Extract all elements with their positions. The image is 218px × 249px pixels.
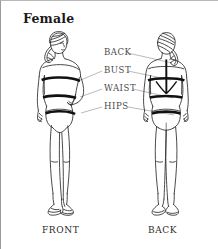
caption-front: FRONT <box>42 225 79 235</box>
caption-back: BACK <box>148 225 177 235</box>
female-measurement-diagram: Female BACK BUST WAIST HIPS <box>0 0 218 249</box>
measurement-label-group: BACK BUST WAIST HIPS <box>104 47 136 111</box>
illustration-canvas: BACK BUST WAIST HIPS <box>1 1 218 249</box>
label-hips: HIPS <box>104 101 129 111</box>
measurement-band-icon <box>42 77 80 114</box>
female-front-body-icon <box>37 32 83 216</box>
label-back: BACK <box>104 47 132 57</box>
label-waist: WAIST <box>104 83 136 93</box>
label-bust: BUST <box>104 65 131 75</box>
